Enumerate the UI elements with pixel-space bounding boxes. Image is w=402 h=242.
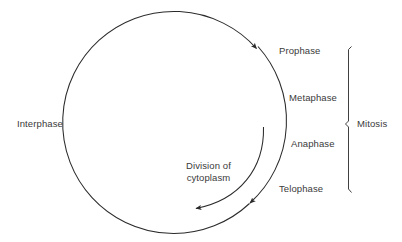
cell-cycle-diagram: Interphase Prophase Metaphase Anaphase T… [0,0,402,242]
label-division-of-cytoplasm: Division of cytoplasm [186,160,231,184]
label-prophase: Prophase [279,45,320,57]
label-anaphase: Anaphase [291,138,335,150]
bracket-path [346,47,352,193]
cycle-arc-mitosis [250,47,286,204]
mitosis-bracket [346,47,352,193]
label-metaphase: Metaphase [289,92,337,104]
cycle-arc-interphase [63,11,257,233]
cycle-circle [63,11,287,233]
label-interphase: Interphase [17,118,63,130]
label-mitosis: Mitosis [357,118,387,130]
label-telophase: Telophase [279,183,323,195]
